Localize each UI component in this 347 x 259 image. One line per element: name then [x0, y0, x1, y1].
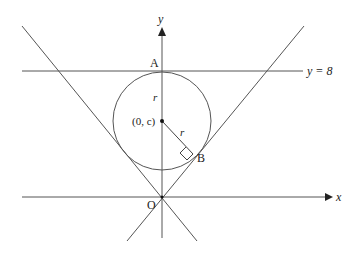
horizontal-line-label: y = 8 — [306, 64, 332, 78]
x-axis-arrow-icon — [325, 193, 333, 201]
origin-label: O — [147, 198, 156, 212]
x-axis-label: x — [335, 190, 342, 204]
radius-label-vertical: r — [153, 91, 158, 103]
right-angle-marker — [180, 147, 193, 160]
geometry-diagram: y x O A B (0, c) r r y = 8 — [0, 0, 347, 259]
y-axis-arrow-icon — [158, 27, 166, 36]
radius-to-b — [162, 121, 193, 154]
point-a-label: A — [150, 56, 159, 70]
radius-label-diagonal: r — [180, 126, 185, 138]
y-axis-label: y — [157, 12, 164, 26]
center-point — [160, 119, 164, 123]
origin-point — [161, 196, 164, 199]
tangent-line-left — [22, 26, 197, 241]
point-b-label: B — [197, 151, 205, 165]
center-label: (0, c) — [132, 115, 156, 128]
